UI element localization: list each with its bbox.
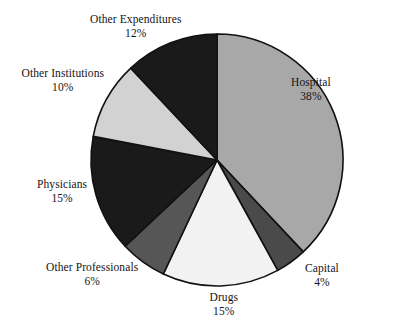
pie-label-name: Drugs (210, 291, 239, 305)
pie-label-value: 12% (90, 27, 182, 41)
pie-slices-group (91, 34, 343, 286)
pie-label-name: Other Professionals (46, 261, 138, 275)
pie-label-hospital: Hospital38% (291, 76, 331, 103)
pie-label-value: 4% (305, 276, 339, 290)
pie-label-name: Other Institutions (22, 67, 105, 81)
pie-label-name: Hospital (291, 76, 331, 90)
pie-label-name: Capital (305, 262, 339, 276)
pie-label-capital: Capital4% (305, 262, 339, 289)
pie-label-value: 38% (291, 90, 331, 104)
pie-label-name: Other Expenditures (90, 13, 182, 27)
pie-label-name: Physicians (37, 178, 87, 192)
pie-label-value: 15% (37, 192, 87, 206)
pie-label-other-expenditures: Other Expenditures12% (90, 13, 182, 40)
pie-label-physicians: Physicians15% (37, 178, 87, 205)
pie-label-value: 10% (22, 81, 105, 95)
pie-chart: Hospital38%Capital4%Drugs15%Other Profes… (0, 0, 397, 334)
pie-label-drugs: Drugs15% (210, 291, 239, 318)
pie-label-value: 15% (210, 305, 239, 319)
pie-label-value: 6% (46, 275, 138, 289)
pie-label-other-institutions: Other Institutions10% (22, 67, 105, 94)
pie-label-other-professionals: Other Professionals6% (46, 261, 138, 288)
